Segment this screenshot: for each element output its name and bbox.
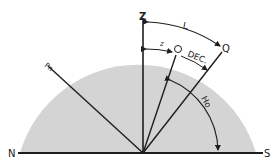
celestial-hemisphere (20, 65, 256, 153)
celestial-sphere-diagram: Z Q L z DEC. Ho Pn N S (0, 0, 280, 163)
label-pole: Pn (43, 61, 55, 73)
label-north: N (8, 148, 15, 159)
label-declination: DEC. (186, 49, 209, 66)
zenith-distance-arc (146, 49, 172, 52)
label-latitude: L (183, 21, 188, 31)
label-south: S (264, 148, 270, 159)
body-marker (175, 46, 182, 53)
label-zenith: Z (139, 11, 146, 22)
label-zenith-distance: z (159, 40, 164, 48)
label-equator-point: Q (222, 43, 230, 54)
